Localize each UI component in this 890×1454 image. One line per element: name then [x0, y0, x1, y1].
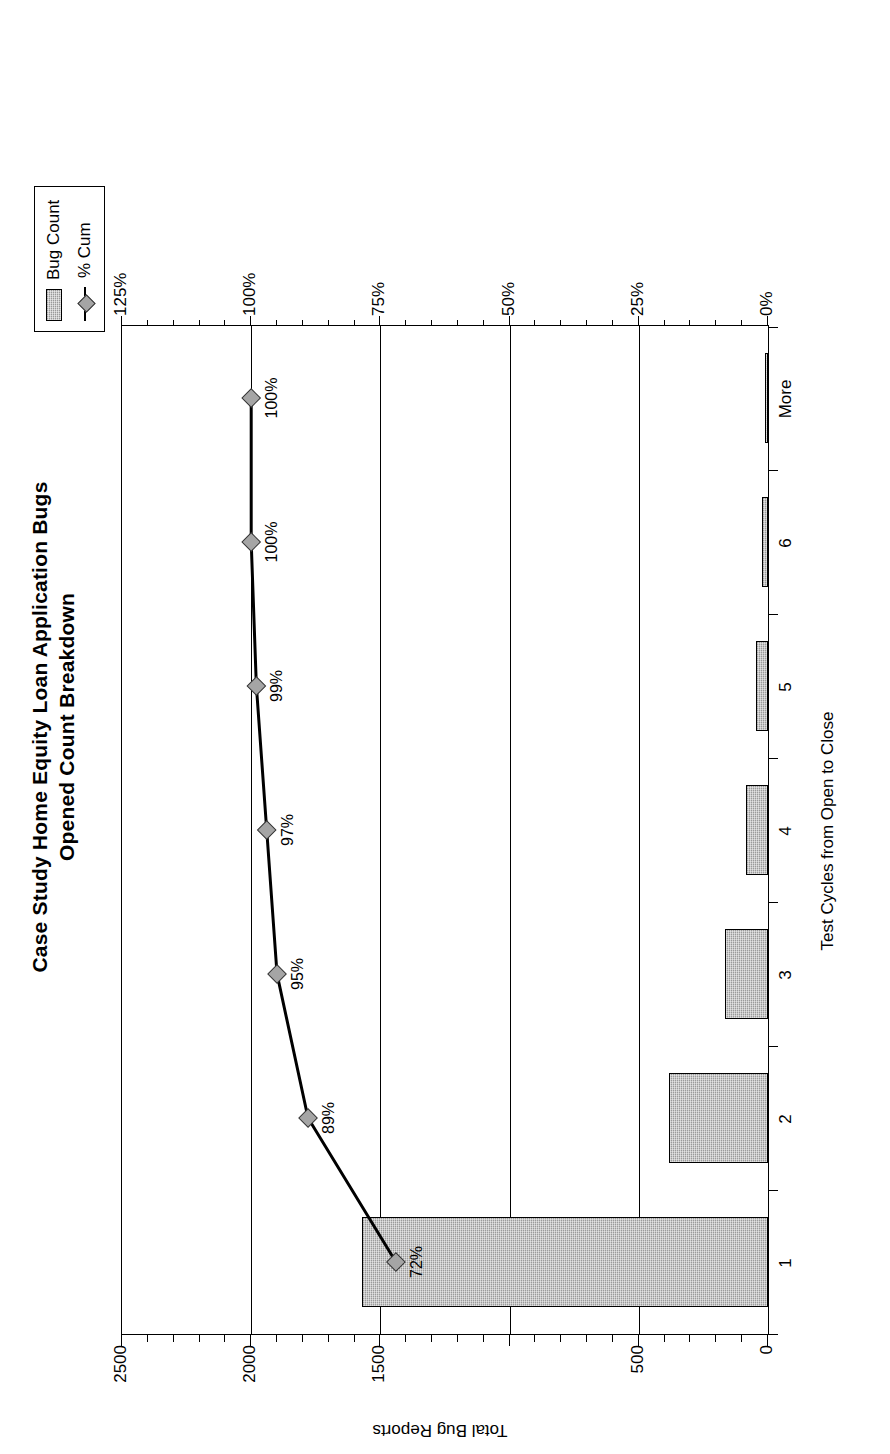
y-left-tick-400: [664, 1335, 665, 1342]
y-left-tick-1000: [509, 1335, 510, 1346]
data-point-marker-2[interactable]: [299, 1109, 317, 1127]
x-axis-tick-6: [769, 470, 778, 471]
data-point-marker-More[interactable]: [242, 389, 260, 407]
y-left-tick-label-0: 0: [757, 1345, 777, 1354]
x-axis-tick-7: [769, 327, 778, 328]
x-axis-tick-1: [769, 1190, 778, 1191]
y-right-tick-label-25: 25%: [628, 282, 648, 316]
data-point-marker-3[interactable]: [268, 965, 286, 983]
data-label-3: 95%: [289, 958, 307, 990]
x-axis-label-5: 5: [776, 682, 796, 691]
data-label-5: 99%: [268, 670, 286, 702]
x-axis-tick-5: [769, 614, 778, 615]
data-point-marker-6[interactable]: [242, 533, 260, 551]
chart-legend: Bug Count % Cum: [34, 186, 105, 332]
y-left-tick-300: [689, 1335, 690, 1342]
y-left-tick-600: [612, 1335, 613, 1342]
pareto-chart-figure: Case Study Home Equity Loan Application …: [0, 0, 890, 1454]
y-right-tick-label-125: 125%: [111, 273, 131, 316]
y-left-tick-2300: [173, 1335, 174, 1342]
data-point-marker-1[interactable]: [387, 1253, 405, 1271]
y-right-tick-label-100: 100%: [240, 273, 260, 316]
y-right-tick-label-75: 75%: [369, 282, 389, 316]
data-point-marker-4[interactable]: [258, 821, 276, 839]
bar-swatch-icon: [46, 289, 62, 321]
y-left-tick-1400: [405, 1335, 406, 1342]
y-left-tick-900: [534, 1335, 535, 1342]
y-left-tick-label-2000: 2000: [240, 1345, 260, 1383]
data-label-1: 72%: [408, 1246, 426, 1278]
x-axis-label-More: More: [776, 380, 796, 419]
legend-label-pct-cum: % Cum: [75, 222, 95, 278]
data-label-6: 100%: [263, 522, 281, 563]
y-left-tick-1100: [483, 1335, 484, 1342]
y-left-tick-1600: [354, 1335, 355, 1342]
x-axis-tick-4: [769, 758, 778, 759]
legend-item-bug-count[interactable]: Bug Count: [44, 200, 64, 321]
y-right-tick-label-50: 50%: [499, 282, 519, 316]
line-diamond-swatch-icon: [78, 287, 92, 321]
y-left-tick-1900: [276, 1335, 277, 1342]
x-axis: 123456More: [769, 327, 809, 1335]
y-left-tick-800: [560, 1335, 561, 1342]
y-left-tick-2200: [199, 1335, 200, 1342]
y-left-tick-label-1500: 1500: [369, 1345, 389, 1383]
y-left-tick-700: [586, 1335, 587, 1342]
x-axis-label-1: 1: [776, 1258, 796, 1267]
y-left-tick-2100: [224, 1335, 225, 1342]
x-axis-label-2: 2: [776, 1114, 796, 1123]
y-left-tick-label-2500: 2500: [111, 1345, 131, 1383]
x-axis-tick-2: [769, 1046, 778, 1047]
y-left-tick-200: [715, 1335, 716, 1342]
x-axis-label-3: 3: [776, 970, 796, 979]
y-left-tick-1700: [328, 1335, 329, 1342]
data-point-marker-5[interactable]: [247, 677, 265, 695]
y-axis-right: 0%25%50%75%100%125%: [121, 207, 769, 327]
x-axis-tick-3: [769, 902, 778, 903]
y-left-tick-1200: [457, 1335, 458, 1342]
y-left-tick-2400: [147, 1335, 148, 1342]
cumulative-line-series: [122, 326, 768, 1334]
x-axis-label-6: 6: [776, 538, 796, 547]
y-right-tick-label-0: 0%: [757, 291, 777, 316]
y-axis-left-title: Total Bug Reports: [116, 1420, 764, 1440]
x-axis-tick-0: [769, 1334, 778, 1335]
y-left-tick-1300: [431, 1335, 432, 1342]
y-left-tick-100: [741, 1335, 742, 1342]
plot-area: 72%89%95%97%99%100%100%: [121, 325, 769, 1335]
y-left-tick-label-500: 500: [628, 1345, 648, 1373]
data-label-2: 89%: [320, 1102, 338, 1134]
legend-item-pct-cum[interactable]: % Cum: [75, 200, 95, 321]
rotated-figure-wrapper: Case Study Home Equity Loan Application …: [0, 0, 890, 1454]
data-label-More: 100%: [263, 378, 281, 419]
y-left-tick-1800: [302, 1335, 303, 1342]
x-axis-label-4: 4: [776, 826, 796, 835]
legend-label-bug-count: Bug Count: [44, 200, 64, 280]
data-label-4: 97%: [279, 814, 297, 846]
x-axis-title: Test Cycles from Open to Close: [818, 327, 838, 1335]
